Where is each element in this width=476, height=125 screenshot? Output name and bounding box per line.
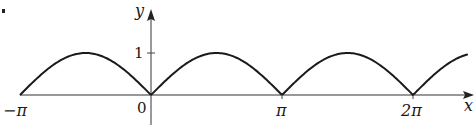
x-tick-label-neg-pi: −π [3, 103, 27, 119]
abs-sine-curve [20, 53, 468, 95]
x-tick-label-pi: π [276, 103, 287, 119]
corner-dot [2, 9, 5, 13]
x-tick-label-2pi: 2π [401, 103, 422, 119]
y-tick-label-1: 1 [134, 46, 144, 61]
y-axis-label: y [135, 3, 144, 19]
x-tick-label-zero: 0 [137, 101, 147, 116]
x-axis-label: x [464, 98, 473, 114]
